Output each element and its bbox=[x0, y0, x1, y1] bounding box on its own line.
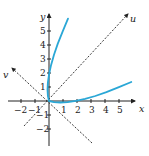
svg-text:−1: −1 bbox=[36, 110, 49, 120]
x-tick-labels: −2 −1 1 2 3 4 5 bbox=[14, 105, 123, 115]
svg-text:4: 4 bbox=[40, 40, 46, 50]
svg-text:2: 2 bbox=[40, 68, 46, 78]
svg-text:5: 5 bbox=[117, 105, 123, 115]
svg-text:1: 1 bbox=[40, 82, 46, 92]
x-axis-label: x bbox=[139, 103, 145, 114]
y-tick-labels: 5 4 3 2 1 −1 −2 bbox=[36, 26, 49, 134]
u-axis-label: u bbox=[130, 13, 136, 24]
svg-text:1: 1 bbox=[61, 105, 67, 115]
parabola-curve bbox=[48, 19, 132, 103]
svg-text:4: 4 bbox=[103, 105, 109, 115]
rotated-parabola-chart: u v x y −2 −1 1 2 3 4 5 5 4 3 bbox=[0, 0, 149, 156]
svg-text:2: 2 bbox=[75, 105, 81, 115]
svg-text:3: 3 bbox=[89, 105, 95, 115]
svg-text:3: 3 bbox=[40, 54, 46, 64]
y-axis-label: y bbox=[39, 11, 46, 22]
svg-text:−2: −2 bbox=[36, 124, 49, 134]
v-axis-label: v bbox=[3, 69, 9, 80]
svg-text:5: 5 bbox=[40, 26, 46, 36]
svg-text:−2: −2 bbox=[14, 105, 27, 115]
